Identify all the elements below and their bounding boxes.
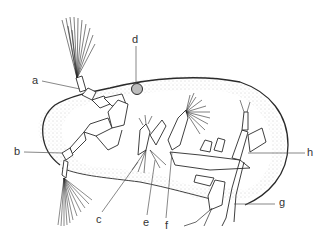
ostracod-diagram: a b c d e f g h bbox=[0, 0, 321, 247]
label-e: e bbox=[143, 217, 149, 228]
label-f: f bbox=[165, 220, 168, 231]
label-h: h bbox=[307, 147, 313, 158]
specimen-drawing bbox=[0, 0, 321, 247]
label-d: d bbox=[132, 34, 138, 45]
label-c: c bbox=[96, 214, 102, 225]
label-g: g bbox=[279, 197, 285, 208]
eye bbox=[132, 84, 143, 95]
label-b: b bbox=[14, 146, 20, 157]
label-a: a bbox=[32, 75, 38, 86]
